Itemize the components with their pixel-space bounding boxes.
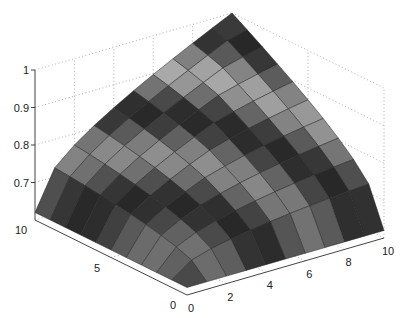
svg-text:0: 0 [188,302,194,314]
svg-text:10: 10 [382,245,394,257]
svg-text:8: 8 [346,256,352,268]
svg-text:5: 5 [94,262,100,274]
surface-plot: 0.70.80.9102468100510 [0,0,417,318]
svg-text:0.9: 0.9 [14,102,29,114]
svg-text:0.7: 0.7 [14,177,29,189]
svg-text:10: 10 [15,224,27,236]
svg-text:0: 0 [170,299,176,311]
svg-text:6: 6 [306,268,312,280]
svg-text:1: 1 [23,64,29,76]
svg-text:2: 2 [227,291,233,303]
svg-text:0.8: 0.8 [14,139,29,151]
svg-text:4: 4 [267,279,273,291]
